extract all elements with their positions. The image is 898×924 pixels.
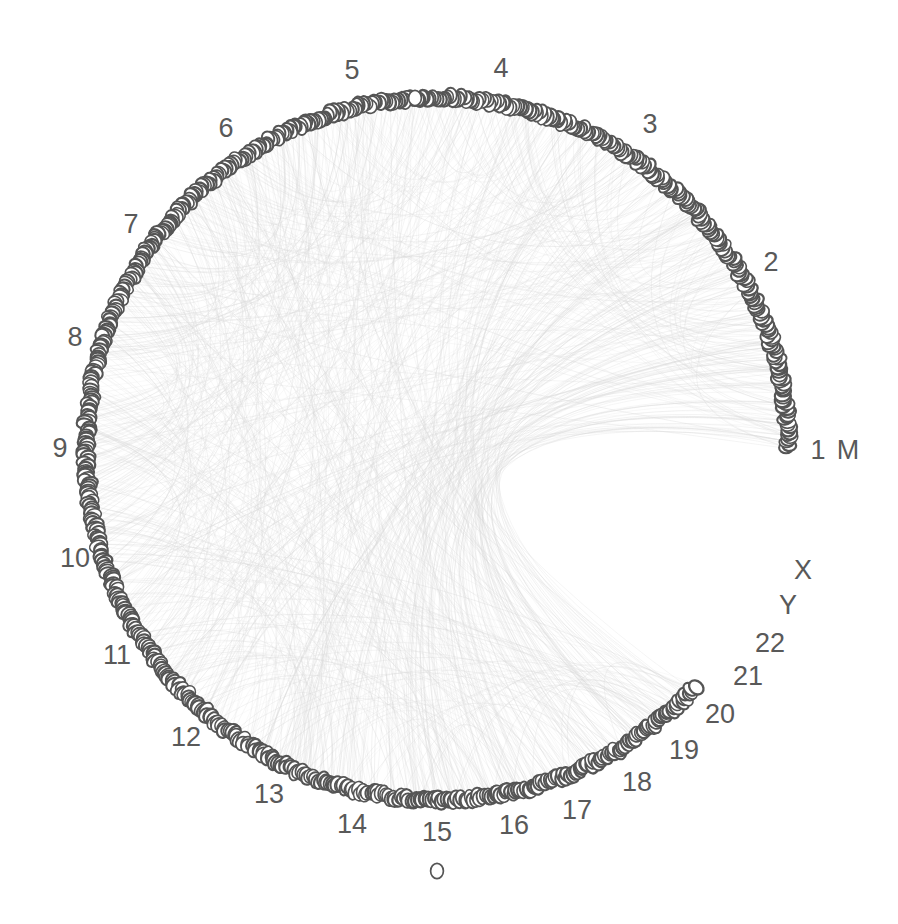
chromosome-label-22[interactable]: 22 xyxy=(755,628,785,658)
chromosome-label-18[interactable]: 18 xyxy=(622,767,652,797)
chromosome-label-11[interactable]: 11 xyxy=(103,640,131,670)
chromosome-label-9[interactable]: 9 xyxy=(52,433,67,463)
chromosome-label-17[interactable]: 17 xyxy=(562,795,592,825)
chromosome-label-2[interactable]: 2 xyxy=(763,247,778,277)
chromosome-label-8[interactable]: 8 xyxy=(67,322,82,352)
chromosome-label-3[interactable]: 3 xyxy=(642,109,657,139)
chromosome-label-6[interactable]: 6 xyxy=(218,113,233,143)
chromosome-label-19[interactable]: 19 xyxy=(669,735,699,765)
chromosome-label-y[interactable]: Y xyxy=(779,590,797,620)
outlier-node[interactable] xyxy=(409,90,422,105)
circular-genome-plot: 12345678910111213141516171819202122XYM xyxy=(0,0,898,924)
chromosome-label-4[interactable]: 4 xyxy=(493,53,508,83)
chromosome-label-m[interactable]: M xyxy=(837,435,860,465)
plot-canvas: 12345678910111213141516171819202122XYM xyxy=(0,0,898,924)
chromosome-label-7[interactable]: 7 xyxy=(123,209,138,239)
chromosome-label-15[interactable]: 15 xyxy=(422,817,452,847)
chromosome-label-12[interactable]: 12 xyxy=(171,722,201,752)
outlier-node[interactable] xyxy=(431,863,444,878)
chromosome-label-5[interactable]: 5 xyxy=(344,55,359,85)
chromosome-label-x[interactable]: X xyxy=(794,555,812,585)
chromosome-label-16[interactable]: 16 xyxy=(499,810,529,840)
chromosome-label-14[interactable]: 14 xyxy=(337,809,367,839)
chromosome-label-21[interactable]: 21 xyxy=(733,661,763,691)
chromosome-label-10[interactable]: 10 xyxy=(60,543,90,573)
chromosome-label-1[interactable]: 1 xyxy=(810,435,825,465)
chromosome-label-13[interactable]: 13 xyxy=(254,779,284,809)
chromosome-label-20[interactable]: 20 xyxy=(705,699,735,729)
